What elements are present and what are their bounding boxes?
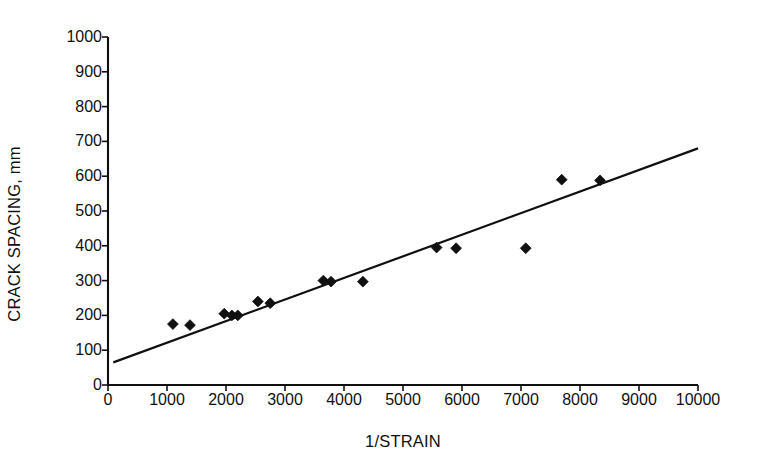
- data-points-group: [168, 174, 606, 330]
- plot-canvas: [0, 0, 761, 468]
- data-point-marker: [168, 319, 179, 330]
- chart-figure: CRACK SPACING, mm 1/STRAIN 0100200300400…: [0, 0, 761, 468]
- data-point-marker: [326, 276, 337, 287]
- trend-line-group: [113, 148, 698, 362]
- data-point-marker: [185, 320, 196, 331]
- data-point-marker: [451, 243, 462, 254]
- data-point-marker: [252, 296, 263, 307]
- data-point-marker: [357, 276, 368, 287]
- trend-line: [113, 148, 698, 362]
- data-point-marker: [556, 174, 567, 185]
- data-point-marker: [595, 175, 606, 186]
- data-point-marker: [520, 243, 531, 254]
